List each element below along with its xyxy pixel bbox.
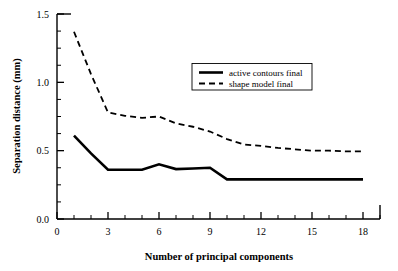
x-axis-title: Number of principal components	[145, 251, 293, 262]
x-tick-label: 9	[208, 226, 213, 237]
x-tick-label: 18	[358, 226, 368, 237]
x-tick-label: 6	[157, 226, 162, 237]
y-axis-title: Separation distance (mm)	[11, 58, 23, 174]
y-tick-label: 1.0	[37, 77, 50, 88]
legend-label-shape-model-final: shape model final	[229, 79, 293, 89]
x-tick-label: 15	[307, 226, 317, 237]
legend: active contours final shape model final	[192, 64, 312, 91]
chart-figure: 0369121518 0.00.51.01.5 Number of princi…	[0, 0, 398, 271]
legend-label-active-contours-final: active contours final	[229, 68, 303, 78]
x-tick-label: 12	[256, 226, 266, 237]
separation-distance-line-chart: 0369121518 0.00.51.01.5 Number of princi…	[0, 0, 398, 271]
figure-background	[0, 0, 398, 271]
y-tick-label: 1.5	[37, 9, 50, 20]
y-tick-label: 0.0	[37, 214, 50, 225]
y-tick-label: 0.5	[37, 145, 50, 156]
x-tick-label: 3	[106, 226, 111, 237]
x-tick-label: 0	[55, 226, 60, 237]
